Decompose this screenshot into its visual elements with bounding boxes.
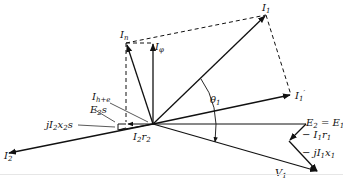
label-ji2x2s: jI2x2s	[44, 119, 73, 132]
label-i1prime: I1′	[294, 89, 305, 103]
label-minus-ji1x1: − jI1x1	[302, 147, 335, 160]
vector-i2	[9, 124, 153, 153]
dashed-i1-to-i1prime	[266, 15, 291, 95]
vector-i2r2	[119, 124, 153, 130]
dashed-in-to-i1	[126, 15, 266, 43]
vector-i1	[153, 16, 265, 124]
page-edge-rule	[0, 174, 343, 175]
leader-lines	[78, 103, 148, 127]
vector-in	[127, 45, 153, 124]
construction-lines	[126, 15, 291, 122]
label-i1: I1	[261, 2, 270, 15]
label-v1: V1	[275, 167, 287, 179]
phasors	[9, 16, 317, 171]
label-ih-e: Ih+e	[91, 91, 110, 104]
label-theta1: θ1	[210, 94, 221, 107]
vector-v1	[153, 124, 317, 171]
label-iphi: Iφ	[154, 41, 164, 54]
label-minus-i1r1: − I1r1	[302, 129, 331, 142]
vector-i1prime	[153, 95, 290, 124]
label-e2s: E2s	[89, 104, 107, 117]
label-i2r2: I2r2	[132, 131, 151, 144]
label-in: In	[119, 29, 129, 42]
phasor-diagram: I1 In Iφ I1′ θ1 Ih+e E2s jI2x2s I2r2 I2 …	[0, 0, 343, 179]
